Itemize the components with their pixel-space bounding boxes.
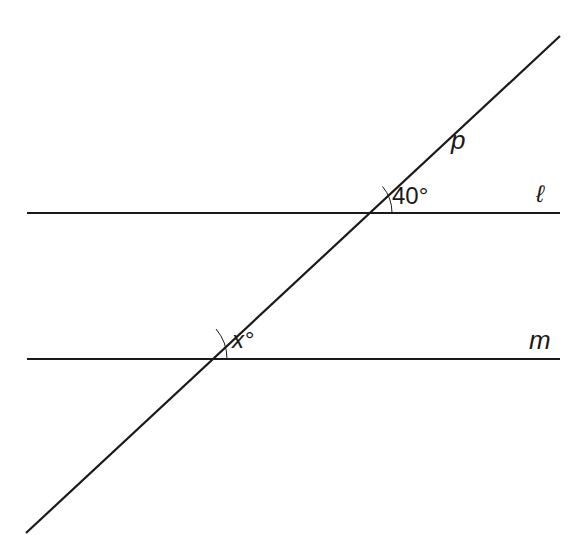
label-m: m (529, 325, 551, 355)
label-l: ℓ (535, 180, 545, 207)
transversal-p (26, 36, 560, 533)
label-angle-40: 40° (392, 182, 428, 209)
label-p: p (450, 125, 465, 155)
diagram-canvas: p 40° ℓ x° m (0, 0, 576, 535)
label-angle-x: x° (231, 326, 254, 353)
